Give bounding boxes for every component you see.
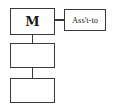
node-assistant-to: Ass't-to: [64, 9, 106, 31]
node-m: M: [10, 8, 55, 35]
node-sub1: [10, 43, 55, 68]
connector-m-to-assistant: [55, 19, 64, 21]
connector-m-to-sub1: [32, 35, 34, 43]
connector-sub1-to-sub2: [32, 68, 34, 78]
node-m-label: M: [25, 14, 39, 29]
node-sub2: [10, 78, 55, 103]
node-assistant-label: Ass't-to: [72, 15, 98, 25]
